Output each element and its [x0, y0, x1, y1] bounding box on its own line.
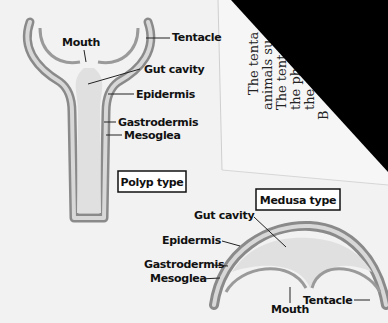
polyp-label-gut-cavity: Gut cavity: [144, 63, 204, 76]
book-line-1: The tenta: [246, 32, 261, 95]
polyp-label-mouth: Mouth: [62, 36, 100, 49]
polyp-label-epidermis: Epidermis: [136, 88, 196, 101]
book-line-2: animals su: [260, 40, 275, 110]
polyp-label-mesoglea: Mesoglea: [124, 129, 181, 142]
polyp-label-gastrodermis: Gastrodermis: [118, 116, 199, 129]
medusa-title: Medusa type: [260, 194, 336, 207]
book-line-6: B: [316, 110, 331, 120]
polyp-title: Polyp type: [120, 176, 183, 189]
medusa-label-epidermis: Epidermis: [162, 234, 222, 247]
cnidarian-body-forms-diagram: The tenta animals su The tent the ph the…: [0, 0, 388, 323]
medusa-label-gut-cavity: Gut cavity: [194, 209, 254, 222]
medusa-label-tentacle: Tentacle: [303, 294, 352, 307]
medusa-label-mesoglea: Mesoglea: [150, 272, 207, 285]
book-line-3: The tent: [274, 54, 289, 110]
medusa-label-gastrodermis: Gastrodermis: [144, 258, 225, 271]
polyp-label-tentacle: Tentacle: [172, 31, 221, 44]
